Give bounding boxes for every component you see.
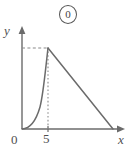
plot-area xyxy=(0,0,136,167)
x-axis-label: x xyxy=(118,133,124,146)
rising-curve-path xyxy=(22,48,48,129)
x-tick-label-0: 0 xyxy=(11,133,18,146)
y-axis-arrow-icon xyxy=(19,26,26,34)
figure-container: 0 y x 0 5 xyxy=(0,0,136,167)
falling-line-path xyxy=(48,48,113,129)
y-axis-label: y xyxy=(4,24,10,37)
x-axis xyxy=(22,126,125,133)
y-axis xyxy=(19,26,26,129)
x-tick-label-5: 5 xyxy=(43,132,50,145)
